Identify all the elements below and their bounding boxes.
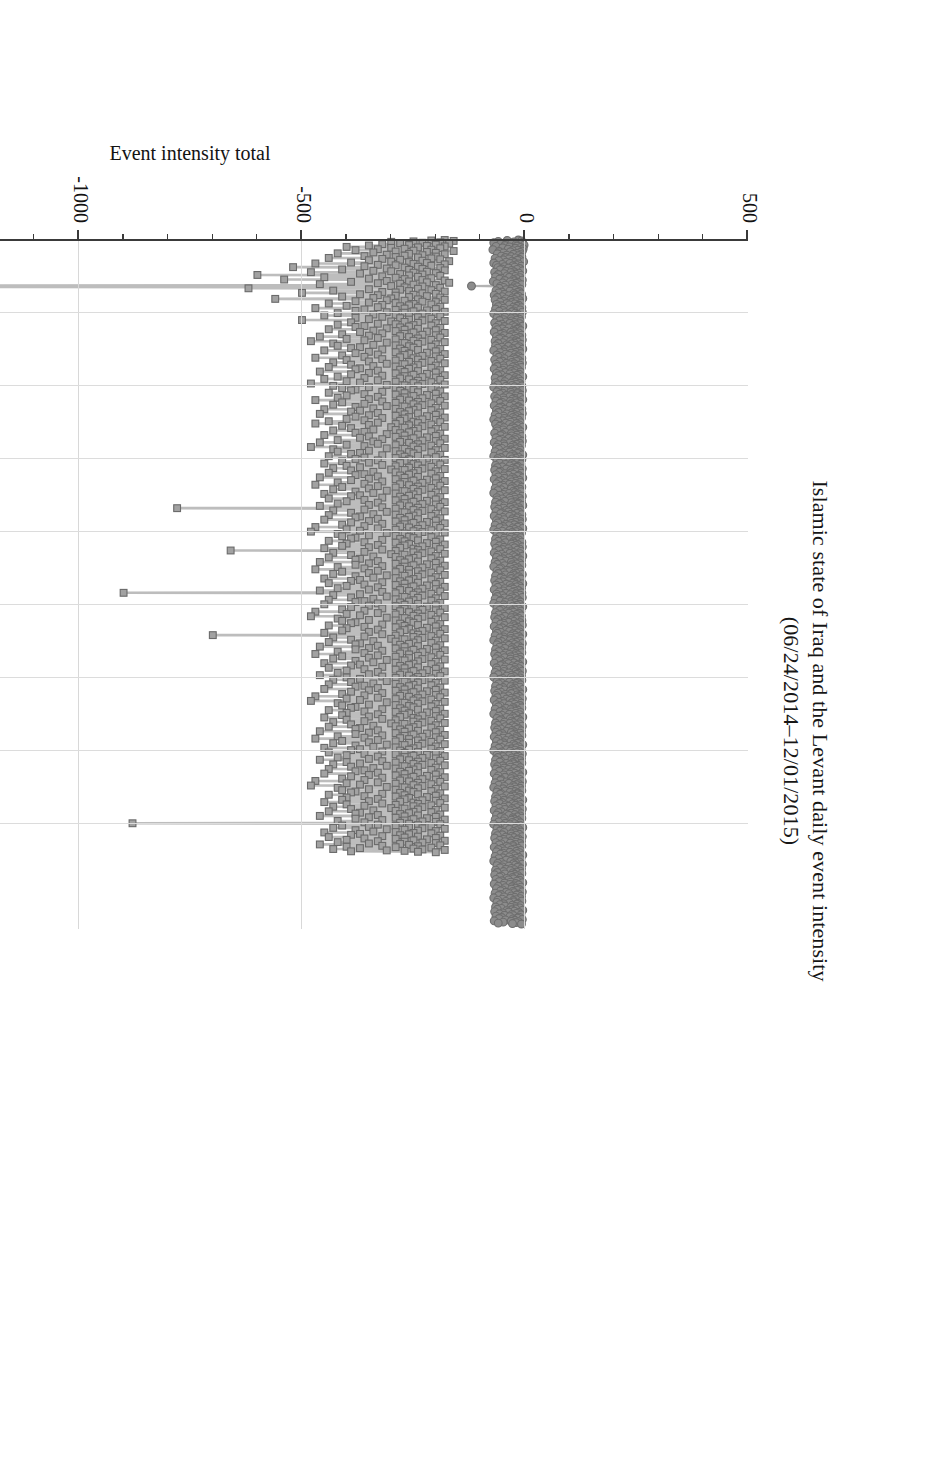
data-point-marker xyxy=(308,338,315,345)
data-point-marker xyxy=(325,707,332,714)
y-gridline xyxy=(78,239,79,929)
data-point-marker xyxy=(366,286,373,293)
data-point-marker xyxy=(357,612,364,619)
chart-series-svg xyxy=(0,239,748,929)
data-point-marker xyxy=(361,400,368,407)
data-point-marker xyxy=(370,426,377,433)
data-point-marker xyxy=(441,487,448,494)
data-point-marker xyxy=(379,313,386,320)
data-point-marker xyxy=(334,585,341,592)
x-gridline xyxy=(0,458,748,459)
data-point-marker xyxy=(361,506,368,513)
data-point-marker xyxy=(325,300,332,307)
data-point-marker xyxy=(334,448,341,455)
data-point-marker xyxy=(343,392,350,399)
data-point-marker xyxy=(325,537,332,544)
data-point-marker xyxy=(316,813,323,820)
y-axis-tick-label: 0 xyxy=(515,213,538,223)
data-point-marker xyxy=(316,756,323,763)
data-point-marker xyxy=(281,276,288,283)
data-point-marker xyxy=(343,243,350,250)
data-point-marker xyxy=(343,378,350,385)
data-point-marker xyxy=(352,731,359,738)
data-point-marker xyxy=(370,659,377,666)
x-gridline xyxy=(0,385,748,386)
data-point-marker xyxy=(370,828,377,835)
data-point-marker xyxy=(272,295,279,302)
data-point-marker xyxy=(330,401,337,408)
data-point-marker xyxy=(383,360,390,367)
data-point-marker xyxy=(383,741,390,748)
y-gridline xyxy=(524,239,525,929)
data-point-marker xyxy=(357,464,364,471)
data-point-marker xyxy=(357,845,364,852)
data-point-marker xyxy=(343,695,350,702)
data-point-marker xyxy=(441,698,448,705)
data-point-marker xyxy=(312,260,319,267)
data-point-marker xyxy=(383,593,390,600)
data-point-marker xyxy=(361,633,368,640)
x-gridline xyxy=(0,823,748,824)
chart-title-line1: Islamic state of Iraq and the Levant dai… xyxy=(808,480,833,981)
data-point-marker xyxy=(348,848,355,855)
data-point-marker xyxy=(441,423,448,430)
data-point-marker xyxy=(441,720,448,727)
data-point-marker xyxy=(330,571,337,578)
data-point-marker xyxy=(312,481,319,488)
data-point-marker xyxy=(441,656,448,663)
data-point-marker xyxy=(441,762,448,769)
data-point-marker xyxy=(357,697,364,704)
data-point-marker xyxy=(441,804,448,811)
data-point-marker xyxy=(339,266,346,273)
x-gridline xyxy=(0,604,748,605)
data-point-marker xyxy=(441,550,448,557)
data-point-marker xyxy=(339,568,346,575)
data-point-marker xyxy=(334,839,341,846)
data-point-marker xyxy=(366,755,373,762)
data-point-marker xyxy=(366,242,373,249)
data-point-marker xyxy=(325,834,332,841)
data-point-marker xyxy=(325,791,332,798)
data-point-marker xyxy=(334,342,341,349)
data-point-marker xyxy=(366,447,373,454)
data-point-marker xyxy=(352,307,359,314)
data-point-marker xyxy=(339,533,346,540)
data-point-marker xyxy=(374,440,381,447)
data-point-marker xyxy=(374,652,381,659)
data-point-marker xyxy=(441,445,448,452)
data-point-marker xyxy=(321,799,328,806)
data-point-marker xyxy=(441,402,448,409)
data-point-marker xyxy=(388,268,395,275)
y-axis-line xyxy=(0,239,748,241)
data-point-marker xyxy=(321,312,328,319)
data-point-marker xyxy=(357,291,364,298)
data-point-marker xyxy=(374,483,381,490)
data-point-marker xyxy=(330,740,337,747)
data-point-marker xyxy=(245,285,252,292)
y-axis-title: Event intensity total xyxy=(110,142,271,165)
data-point-marker xyxy=(316,841,323,848)
data-point-marker xyxy=(316,368,323,375)
data-point-marker xyxy=(325,389,332,396)
data-point-marker xyxy=(401,847,408,854)
data-point-marker xyxy=(299,289,306,296)
data-point-marker xyxy=(339,653,346,660)
data-point-marker xyxy=(441,847,448,854)
data-point-marker xyxy=(308,269,315,276)
data-point-marker xyxy=(334,321,341,328)
data-point-marker xyxy=(348,773,355,780)
data-point-marker xyxy=(330,655,337,662)
data-point-marker xyxy=(441,593,448,600)
data-point-marker xyxy=(339,484,346,491)
y-axis-tick xyxy=(78,230,80,239)
data-point-marker xyxy=(316,281,323,288)
data-point-marker xyxy=(209,632,216,639)
data-point-marker xyxy=(366,299,373,306)
data-point-marker xyxy=(321,432,328,439)
plot-canvas xyxy=(0,239,748,929)
data-point-marker xyxy=(357,270,364,277)
data-point-marker xyxy=(339,422,346,429)
data-point-marker xyxy=(330,486,337,493)
data-point-marker xyxy=(379,546,386,553)
data-point-marker xyxy=(334,310,341,317)
